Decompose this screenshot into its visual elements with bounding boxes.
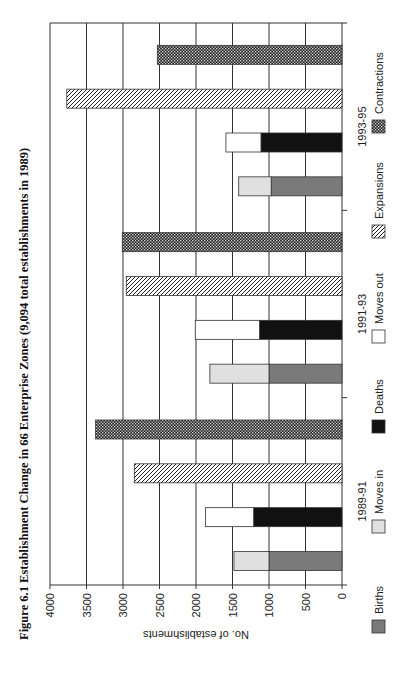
tick-label: 1000 <box>263 593 275 617</box>
value-axis-label: No. of establishments <box>143 629 249 641</box>
bar-contractions <box>157 45 342 64</box>
bar-births <box>269 364 342 383</box>
bar-expansions <box>67 89 342 108</box>
bar-moves-out <box>205 508 253 527</box>
bar-births <box>269 552 342 571</box>
bar-deaths <box>254 508 342 527</box>
legend: BirthsMoves inDeathsMoves outExpansionsC… <box>372 52 385 633</box>
legend-swatch <box>372 120 385 133</box>
bar-births <box>271 177 342 196</box>
legend-swatch <box>372 225 385 238</box>
category-label: 1993-95 <box>356 106 368 146</box>
category-labels: 1989-911991-931993-95 <box>356 106 368 521</box>
legend-swatch <box>372 520 385 533</box>
chart-title: Figure 6.1 Establishment Change in 66 En… <box>17 148 31 640</box>
bar-moves-in <box>239 177 271 196</box>
legend-label: Moves in <box>373 470 385 514</box>
tick-label: 0 <box>336 593 348 599</box>
bar-moves-in <box>210 364 269 383</box>
bar-deaths <box>260 320 342 339</box>
legend-swatch <box>372 330 385 343</box>
tick-label: 3500 <box>81 593 93 617</box>
tick-label: 500 <box>300 593 312 611</box>
chart: Figure 6.1 Establishment Change in 66 En… <box>0 0 408 677</box>
legend-swatch <box>372 420 385 433</box>
legend-swatch <box>372 620 385 633</box>
category-label: 1991-93 <box>356 294 368 334</box>
bar-moves-out <box>195 320 259 339</box>
bar-deaths <box>261 133 342 152</box>
tick-label: 2000 <box>190 593 202 617</box>
bar-moves-in <box>234 552 269 571</box>
bar-contractions <box>96 420 342 439</box>
bar-moves-out <box>226 133 261 152</box>
bar-contractions <box>122 233 342 252</box>
legend-label: Expansions <box>373 162 385 219</box>
tick-label: 2500 <box>154 593 166 617</box>
legend-label: Moves out <box>373 273 385 324</box>
category-label: 1989-91 <box>356 481 368 521</box>
legend-label: Contractions <box>373 52 385 114</box>
tick-label: 1500 <box>227 593 239 617</box>
bar-expansions <box>134 464 342 483</box>
legend-label: Deaths <box>373 379 385 414</box>
tick-label: 4000 <box>44 593 56 617</box>
legend-label: Births <box>373 585 385 614</box>
tick-label: 3000 <box>117 593 129 617</box>
bar-expansions <box>126 277 342 296</box>
